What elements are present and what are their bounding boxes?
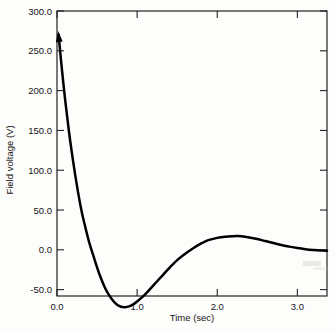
y-tick-label: -50.0 <box>30 284 52 295</box>
y-tick-label: 100.0 <box>28 165 52 176</box>
y-tick-label: 0.0 <box>39 244 52 255</box>
field-voltage-curve <box>59 35 327 307</box>
plot-frame <box>57 11 327 296</box>
chart-figure: -50.00.050.0100.0150.0200.0250.0300.0 0.… <box>0 0 335 331</box>
field-voltage-line-chart: -50.00.050.0100.0150.0200.0250.0300.0 0.… <box>0 0 335 331</box>
y-tick-label: 150.0 <box>28 125 52 136</box>
x-tick-label: 3.0 <box>291 301 304 312</box>
scan-artifact <box>303 261 321 266</box>
x-tick-label: 2.0 <box>211 301 224 312</box>
scan-artifact-secondary <box>313 267 327 270</box>
x-tick-label: 0.0 <box>50 301 63 312</box>
x-axis-tick-labels: 0.01.02.03.0 <box>50 301 304 312</box>
y-axis-title: Field voltage (V) <box>4 125 15 194</box>
y-tick-label: 250.0 <box>28 45 52 56</box>
y-tick-label: 300.0 <box>28 6 52 17</box>
y-tick-label: 200.0 <box>28 85 52 96</box>
y-tick-label: 50.0 <box>34 205 53 216</box>
axis-tick-marks <box>57 11 327 296</box>
x-axis-title: Time (sec) <box>170 312 215 323</box>
y-axis-tick-labels: -50.00.050.0100.0150.0200.0250.0300.0 <box>28 6 52 296</box>
